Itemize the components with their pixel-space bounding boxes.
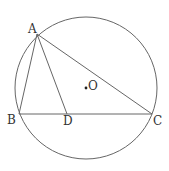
label-o: O [88,79,98,93]
segment-ab [19,34,37,114]
geometry-diagram: A B C D O [0,0,169,171]
segment-ad [37,34,67,114]
segment-ac [37,34,152,114]
label-c: C [153,114,162,128]
label-d: D [63,114,73,128]
label-a: A [27,22,37,36]
center-point-o [85,87,88,90]
label-b: B [7,113,16,127]
